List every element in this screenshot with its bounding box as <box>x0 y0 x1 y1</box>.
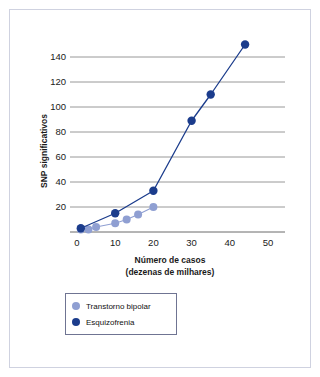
legend-marker-circle-icon <box>72 318 80 326</box>
y-tick-label: 80 <box>55 126 66 137</box>
data-point-marker <box>111 219 119 227</box>
y-tick-label: 60 <box>55 151 66 162</box>
legend-marker-circle-icon <box>72 302 80 310</box>
legend-label-transtorno-bipolar: Transtorno bipolar <box>86 302 151 311</box>
data-point-marker <box>187 117 195 125</box>
x-tick-label: 30 <box>186 237 197 248</box>
data-point-marker <box>149 187 157 195</box>
x-tick-label: 10 <box>110 237 121 248</box>
figure-container: 2040608010012014001020304050 SNP signifi… <box>0 0 320 377</box>
chart-legend: Transtorno bipolar Esquizofrenia <box>65 293 177 335</box>
data-point-marker <box>111 209 119 217</box>
y-tick-label: 40 <box>55 176 66 187</box>
legend-item-transtorno-bipolar: Transtorno bipolar <box>72 298 170 314</box>
x-axis-title-line2: (dezenas de milhares) <box>60 267 280 279</box>
y-tick-label: 120 <box>50 76 66 87</box>
legend-label-esquizofrenia: Esquizofrenia <box>86 318 134 327</box>
data-point-marker <box>77 224 85 232</box>
x-tick-label: 40 <box>225 237 236 248</box>
y-tick-label: 20 <box>55 201 66 212</box>
y-axis-title-container: SNP significativos <box>26 60 40 190</box>
y-tick-label: 100 <box>50 101 66 112</box>
series-line-esquizofrenia <box>81 45 245 229</box>
data-point-marker <box>92 223 100 231</box>
data-point-marker <box>134 211 142 219</box>
data-point-marker <box>123 216 131 224</box>
x-tick-label: 50 <box>263 237 274 248</box>
x-axis-title-container: Número de casos (dezenas de milhares) <box>60 255 280 278</box>
y-axis-title: SNP significativos <box>39 114 49 188</box>
x-tick-label: 20 <box>148 237 159 248</box>
x-tick-label: 0 <box>74 237 79 248</box>
x-axis-title-line1: Número de casos <box>60 255 280 267</box>
data-point-marker <box>241 40 249 48</box>
data-point-marker <box>207 90 215 98</box>
data-point-marker <box>149 203 157 211</box>
legend-item-esquizofrenia: Esquizofrenia <box>72 314 170 330</box>
y-tick-label: 140 <box>50 51 66 62</box>
